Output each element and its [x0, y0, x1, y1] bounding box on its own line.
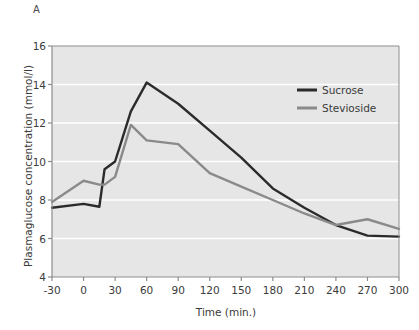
legend-label-stevioside: Stevioside [322, 102, 376, 114]
legend-label-sucrose: Sucrose [322, 84, 364, 96]
plot-canvas [0, 0, 419, 330]
figure-panel-a: A Plasmaglucose concentration (mmol/l) T… [0, 0, 419, 330]
